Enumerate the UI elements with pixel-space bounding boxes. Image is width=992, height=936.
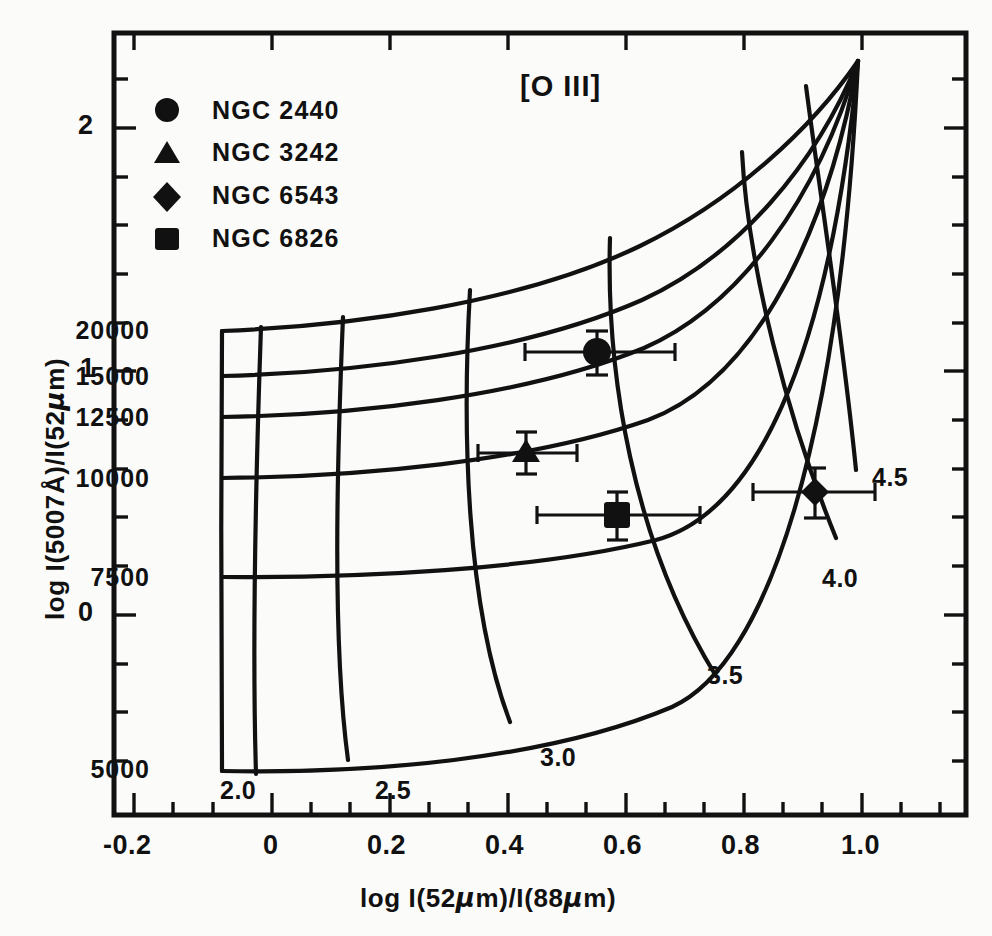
density-label-3-5: 3.5 <box>707 663 743 688</box>
legend-label-ngc-3242: NGC 3242 <box>212 140 340 165</box>
xtick-label-0-2: 0.2 <box>367 832 406 859</box>
y-axis-title-pre: log I(5007 <box>40 494 70 620</box>
legend-label-ngc-2440: NGC 2440 <box>212 98 340 123</box>
marker-diamond <box>801 478 829 506</box>
xtick-label-0-6: 0.6 <box>603 832 642 859</box>
temperature-label-7500: 7500 <box>69 565 150 590</box>
x-axis-title-mu1: μ <box>456 883 476 913</box>
x-axis-ticks-top <box>134 33 862 50</box>
density-line-2.5 <box>254 327 261 774</box>
y-axis-title: log I(5007Å)/I(52μm) <box>42 358 68 620</box>
density-line-4.0 <box>610 238 716 676</box>
y-axis-title-mid: )/I(52 <box>40 410 70 474</box>
xtick-label-0: 0 <box>263 832 279 859</box>
ytick-label-0: 0 <box>78 599 94 626</box>
density-label-4-0: 4.0 <box>822 566 858 591</box>
marker-circle <box>583 338 611 366</box>
legend-label-ngc-6826: NGC 6826 <box>212 226 340 251</box>
density-line-3.0 <box>337 317 348 760</box>
legend-circle-icon <box>155 98 179 122</box>
y-axis-ticks-right <box>944 79 966 761</box>
density-line-3.5 <box>467 290 510 722</box>
x-axis-title-post: m) <box>583 883 616 913</box>
data-point-ngc-3242[interactable] <box>478 432 577 474</box>
model-temperature-curves <box>222 61 858 771</box>
temperature-label-5000: 5000 <box>69 757 150 782</box>
legend-symbols <box>153 98 181 250</box>
legend-triangle-icon <box>154 141 180 163</box>
legend-label-ngc-6543: NGC 6543 <box>212 183 340 208</box>
x-axis-title-mid: m)/I(88 <box>476 883 564 913</box>
ytick-label-2: 2 <box>78 112 94 139</box>
x-axis-title-pre: log I(52 <box>360 883 456 913</box>
panel-title: [O III] <box>520 72 601 101</box>
temperature-label-20000: 20000 <box>42 318 150 343</box>
legend-square-icon <box>155 228 179 250</box>
marker-square <box>604 502 630 528</box>
xtick-label-0-4: 0.4 <box>485 832 524 859</box>
y-axis-title-angstrom-icon: Å <box>40 475 70 494</box>
data-point-ngc-6543[interactable] <box>753 468 875 518</box>
data-point-ngc-2440[interactable] <box>525 331 675 375</box>
y-axis-title-post: m) <box>40 358 70 391</box>
figure-root: [O III] NGC 2440 NGC 3242 NGC 6543 NGC 6… <box>0 0 992 936</box>
ytick-label-1: 1 <box>80 355 96 382</box>
density-line-2.0 <box>221 331 222 771</box>
density-label-2-5: 2.5 <box>375 778 411 803</box>
xtick-label-0-8: 0.8 <box>721 832 760 859</box>
density-label-4-5: 4.5 <box>872 465 908 490</box>
legend-diamond-icon <box>153 182 181 212</box>
density-label-3-0: 3.0 <box>540 745 576 770</box>
xtick-label-minus-0-2: -0.2 <box>103 832 152 859</box>
density-label-2-0: 2.0 <box>220 778 256 803</box>
x-axis-title: log I(52μm)/I(88μm) <box>360 885 616 911</box>
y-axis-title-mu: μ <box>40 391 70 411</box>
xtick-label-1-0: 1.0 <box>841 832 880 859</box>
x-axis-title-mu2: μ <box>564 883 584 913</box>
